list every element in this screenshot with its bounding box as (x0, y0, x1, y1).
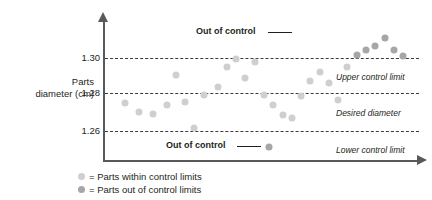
data-point-within (261, 91, 268, 98)
y-tick-label-1-28: 1.28 (66, 88, 100, 98)
data-point-within (288, 114, 295, 121)
data-point-within (307, 78, 314, 85)
data-point-within (223, 63, 230, 70)
data-point-within (335, 96, 342, 103)
y-tick-label-1-26: 1.26 (66, 126, 100, 136)
data-point-within (233, 55, 240, 62)
data-point-within (270, 101, 277, 108)
data-point-within (149, 111, 156, 118)
legend-item-out: = Parts out of control limits (78, 183, 328, 196)
y-axis-title-line1: Parts (6, 76, 94, 88)
data-point-within (121, 100, 128, 107)
legend-label-within: = Parts within control limits (89, 171, 202, 182)
annotation-leader-line-bottom (237, 146, 261, 147)
data-point-within (251, 59, 258, 66)
data-point-within (135, 109, 142, 116)
data-point-within (242, 75, 249, 82)
annotation-out-of-control-top: Out of control (196, 26, 256, 36)
data-point-within (325, 80, 332, 87)
data-point-out (381, 35, 388, 42)
data-point-within (279, 111, 286, 118)
data-point-within (298, 92, 305, 99)
annotation-out-of-control-bottom: Out of control (166, 140, 226, 150)
data-point-within (214, 83, 221, 90)
data-point-out (265, 143, 272, 150)
legend-marker-out-icon (78, 186, 85, 193)
data-point-within (191, 124, 198, 131)
legend-marker-within-icon (78, 173, 85, 180)
legend: = Parts within control limits = Parts ou… (78, 170, 328, 196)
data-point-out (353, 52, 360, 59)
data-point-within (182, 99, 189, 106)
data-point-out (400, 52, 407, 59)
data-point-within (316, 68, 323, 75)
data-point-within (172, 72, 179, 79)
legend-label-out: = Parts out of control limits (89, 184, 201, 195)
annotation-leader-line-top (268, 32, 292, 33)
y-tick-label-1-30: 1.30 (66, 53, 100, 63)
control-chart: Parts diameter (cm) 1.30 1.28 1.26 Upper… (0, 0, 432, 200)
data-point-out (372, 42, 379, 49)
data-point-within (200, 92, 207, 99)
data-point-within (163, 101, 170, 108)
data-point-out (390, 46, 397, 53)
legend-item-within: = Parts within control limits (78, 170, 328, 183)
plot-area (103, 14, 425, 161)
data-point-within (344, 63, 351, 70)
data-point-out (363, 47, 370, 54)
